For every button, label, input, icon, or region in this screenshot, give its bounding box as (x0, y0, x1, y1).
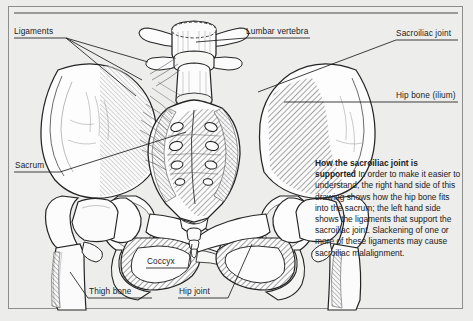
sacrum-bone (146, 98, 246, 233)
label-lumbar-vertebra: Lumbar vertebra (246, 26, 308, 36)
label-coccyx: Coccyx (147, 256, 175, 266)
caption-block: How the sacroiliac joint is supported In… (315, 158, 461, 259)
label-hip-bone-ilium: Hip bone (ilium) (396, 90, 456, 100)
caption-body: In order to make it easier to understand… (315, 169, 460, 257)
label-sacrum: Sacrum (15, 160, 44, 170)
figure-panel: Ligaments Lumbar vertebra Sacroiliac joi… (0, 0, 473, 321)
label-sacroiliac-joint: Sacroiliac joint (396, 28, 451, 38)
label-thigh-bone: Thigh bone (89, 286, 132, 296)
label-hip-joint: Hip joint (179, 286, 210, 296)
lumbar-vertebra-bone (139, 21, 249, 109)
label-ligaments: Ligaments (14, 26, 53, 36)
